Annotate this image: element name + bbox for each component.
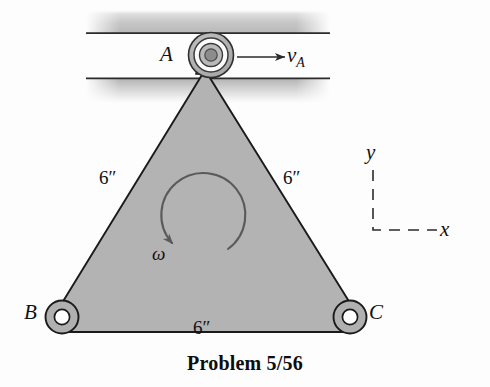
label-side-right-length: 6″ [283,168,300,187]
problem-figure: A vA 6″ 6″ 6″ ω B C y x Problem 5/56 [0,0,490,387]
figure-caption: Problem 5/56 [0,352,490,375]
roller-joint-a [189,33,234,78]
pin-joint-b [46,301,79,334]
label-axis-x: x [440,219,449,240]
label-axis-y: y [366,142,375,163]
label-omega: ω [152,244,165,263]
velocity-symbol: v [287,43,296,67]
mechanism-diagram [0,0,490,387]
upper-rail [86,10,330,33]
label-velocity-a: vA [287,45,305,70]
label-point-b: B [24,302,37,323]
label-point-a: A [160,44,173,65]
label-side-bottom-length: 6″ [193,318,210,337]
label-point-c: C [369,302,383,323]
coordinate-axes [373,170,437,230]
pin-a [205,49,217,61]
velocity-subscript: A [296,55,305,70]
label-side-left-length: 6″ [99,168,116,187]
pin-joint-c [334,301,367,334]
